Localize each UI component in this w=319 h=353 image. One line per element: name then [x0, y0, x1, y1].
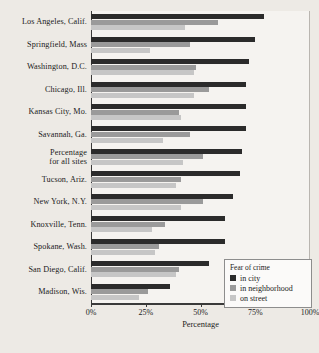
- x-tick: [146, 303, 147, 307]
- legend-label-in-neighborhood: in neighborhood: [240, 284, 293, 293]
- x-tick-label: 0%: [86, 308, 97, 317]
- x-tick-label: 75%: [248, 308, 263, 317]
- x-tick-label: 25%: [138, 308, 153, 317]
- x-axis-title: Percentage: [91, 320, 310, 329]
- x-tick-label: 100%: [301, 308, 319, 317]
- legend-item-in-neighborhood: in neighborhood: [230, 283, 307, 293]
- legend-label-in-city: in city: [240, 274, 260, 283]
- legend-item-in-city: in city: [230, 273, 307, 283]
- x-tick: [91, 303, 92, 307]
- legend-item-on-street: on street: [230, 293, 307, 303]
- legend: Fear of crime in city in neighborhood on…: [224, 259, 312, 308]
- legend-swatch-in-neighborhood: [230, 285, 236, 291]
- legend-label-on-street: on street: [240, 294, 267, 303]
- x-tick-label: 50%: [193, 308, 208, 317]
- legend-swatch-on-street: [230, 295, 236, 301]
- legend-title: Fear of crime: [230, 263, 307, 272]
- chart-screenshot: Los Angeles, Calif.Springfield, MassWash…: [0, 0, 319, 353]
- legend-swatch-in-city: [230, 275, 236, 281]
- x-tick: [201, 303, 202, 307]
